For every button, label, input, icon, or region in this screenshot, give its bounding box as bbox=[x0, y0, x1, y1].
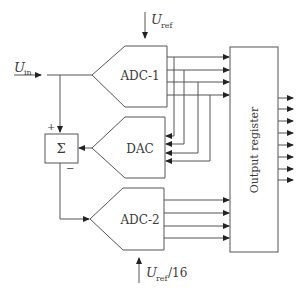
dac-input-bus bbox=[166, 57, 210, 161]
u-ref16-subscript: ref bbox=[156, 274, 169, 283]
dac-label: DAC bbox=[126, 142, 153, 156]
sum-to-adc2-wire bbox=[60, 163, 89, 219]
u-ref-input: U ref bbox=[145, 12, 174, 38]
summing-junction: Σ + − bbox=[45, 121, 78, 174]
adc1-block: ADC-1 bbox=[92, 46, 167, 107]
register-output-bus bbox=[278, 98, 293, 180]
u-in-input: U in bbox=[14, 60, 41, 77]
u-ref16-suffix: /16 bbox=[168, 266, 187, 280]
output-register: Output register bbox=[230, 47, 278, 252]
u-ref-subscript: ref bbox=[161, 21, 174, 30]
dac-block: DAC bbox=[92, 117, 165, 178]
adc2-output-bus bbox=[164, 200, 229, 238]
adc2-label: ADC-2 bbox=[119, 213, 159, 227]
plus-sign: + bbox=[47, 121, 55, 132]
u-ref16-input: U ref /16 bbox=[139, 258, 187, 283]
u-in-subscript: in bbox=[24, 68, 32, 77]
two-stage-adc-diagram: U in U ref ADC-1 DAC ADC-2 Σ + − Output … bbox=[0, 0, 306, 297]
adc1-label: ADC-1 bbox=[119, 69, 159, 83]
sigma-label: Σ bbox=[56, 141, 65, 156]
adc2-block: ADC-2 bbox=[90, 188, 164, 250]
minus-sign: − bbox=[66, 163, 74, 174]
output-register-label: Output register bbox=[248, 106, 261, 193]
